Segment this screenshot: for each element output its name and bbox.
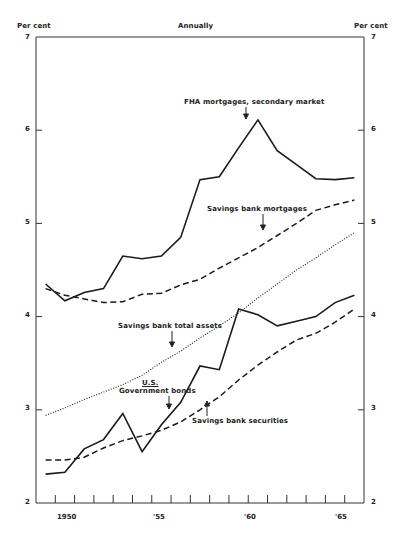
arrow-fha: [244, 107, 249, 119]
arrow-sb-total-assets: [170, 331, 175, 347]
label-savings-bank-securities: Savings bank securities: [192, 417, 288, 425]
arrow-sb-mortgages: [261, 214, 266, 230]
plot-frame: [36, 37, 364, 503]
series-line-4: [46, 309, 355, 460]
label-savings-bank-mortgages: Savings bank mortgages: [207, 205, 307, 213]
label-fha-mortgages: FHA mortgages, secondary market: [184, 98, 324, 106]
x-axis-ticks: [55, 495, 344, 503]
series-line-1: [46, 200, 355, 303]
label-us: U.S.: [142, 379, 158, 387]
label-savings-bank-total-assets: Savings bank total assets: [118, 322, 222, 330]
label-government-bonds: Government bonds: [119, 387, 196, 395]
arrow-gov-bonds: [167, 396, 172, 409]
y-axis-ticks: [36, 130, 364, 410]
series-line-0: [46, 120, 355, 301]
line-chart: [0, 0, 399, 538]
